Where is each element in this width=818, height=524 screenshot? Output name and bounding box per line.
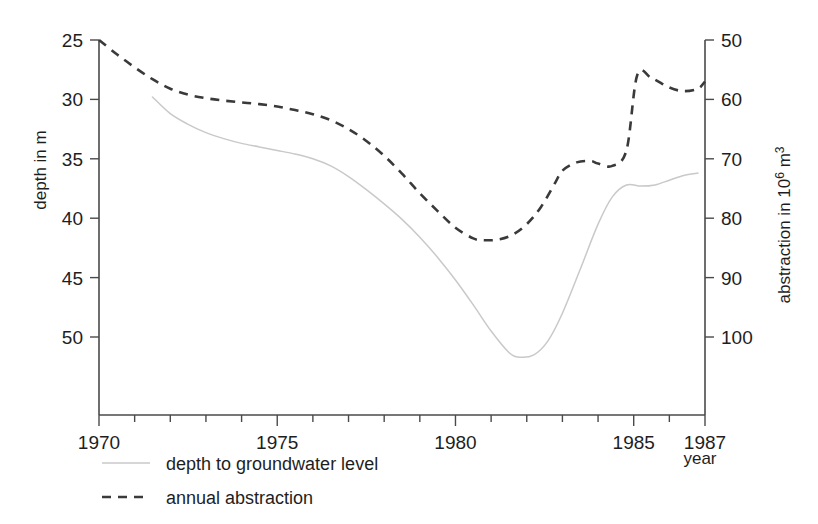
legend: depth to groundwater level annual abstra…: [102, 454, 378, 508]
chart-canvas: 253035404550 5060708090100 1970197519801…: [0, 0, 818, 524]
x-axis-tick-label: 1970: [78, 432, 120, 453]
y-axis-left-tick-label: 45: [62, 268, 83, 289]
y-axis-right-ticks: [705, 40, 714, 337]
x-axis-tick-labels: 19701975198019851987: [78, 432, 726, 453]
series-line-depth-to-groundwater-level: [152, 97, 697, 357]
x-axis-tick-label: 1985: [613, 432, 655, 453]
legend-label-depth-to-groundwater-level: depth to groundwater level: [166, 454, 378, 474]
x-axis-tick-label: 1980: [434, 432, 476, 453]
legend-item-annual-abstraction: annual abstraction: [102, 488, 313, 508]
y-axis-right-title: abstraction in 106 m3: [773, 146, 794, 303]
y-axis-right-title-suffix: m: [775, 153, 794, 172]
x-axis-tick-label: 1975: [256, 432, 298, 453]
y-axis-right-tick-label: 80: [721, 208, 742, 229]
y-axis-left-tick-label: 40: [62, 208, 83, 229]
y-axis-left-tick-labels: 253035404550: [62, 30, 83, 348]
y-axis-left-tick-label: 35: [62, 149, 83, 170]
x-axis-ticks: [99, 415, 705, 426]
legend-label-annual-abstraction: annual abstraction: [166, 488, 313, 508]
legend-item-depth-to-groundwater-level: depth to groundwater level: [102, 454, 378, 474]
y-axis-right-tick-label: 70: [721, 149, 742, 170]
y-axis-left-title: depth in m: [31, 130, 50, 209]
y-axis-right-tick-label: 90: [721, 268, 742, 289]
series-line-annual-abstraction: [99, 40, 705, 240]
y-axis-right-title-exponent2: 3: [773, 146, 787, 153]
y-axis-right-tick-label: 50: [721, 30, 742, 51]
y-axis-right-tick-label: 100: [721, 327, 753, 348]
y-axis-left-ticks: [90, 40, 99, 337]
y-axis-right-title-prefix: abstraction in 10: [775, 179, 794, 304]
groundwater-abstraction-chart: 253035404550 5060708090100 1970197519801…: [0, 0, 818, 524]
y-axis-left-tick-label: 50: [62, 327, 83, 348]
axes-group: [99, 40, 705, 415]
y-axis-left-tick-label: 30: [62, 89, 83, 110]
y-axis-right-tick-labels: 5060708090100: [721, 30, 753, 348]
y-axis-left-tick-label: 25: [62, 30, 83, 51]
y-axis-right-tick-label: 60: [721, 89, 742, 110]
x-axis-title: year: [683, 449, 716, 468]
